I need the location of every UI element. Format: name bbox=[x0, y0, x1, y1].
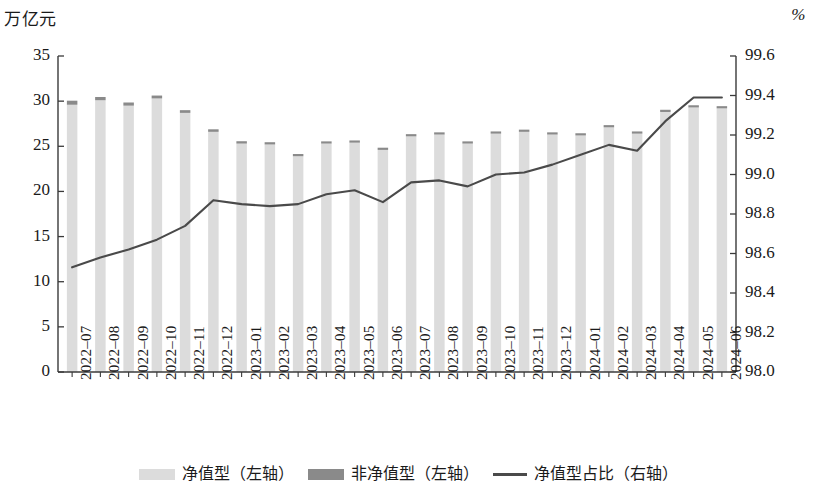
chart-legend: 净值型（左轴） 非净值型（左轴） 净值型占比（右轴） bbox=[0, 466, 816, 482]
bar-group bbox=[547, 132, 558, 372]
bar-group bbox=[604, 125, 615, 372]
legend-item-non-net-value: 非净值型（左轴） bbox=[308, 466, 479, 482]
right-tick-label: 98.0 bbox=[745, 361, 775, 381]
bar-group bbox=[717, 106, 728, 372]
bar-group bbox=[519, 130, 530, 372]
bar-group bbox=[434, 132, 445, 372]
x-tick-label: 2022–09 bbox=[135, 325, 152, 380]
bar-group bbox=[491, 131, 502, 372]
bar-group bbox=[378, 148, 389, 372]
x-tick-label: 2022–12 bbox=[219, 325, 236, 380]
x-tick-label: 2022–10 bbox=[163, 325, 180, 380]
chart-plot-area bbox=[0, 0, 816, 494]
x-tick-label: 2024–06 bbox=[728, 325, 745, 380]
right-tick-label: 98.4 bbox=[745, 282, 775, 302]
x-tick-label: 2024–01 bbox=[587, 325, 604, 380]
right-tick-label: 99.2 bbox=[745, 124, 775, 144]
x-tick-label: 2023–06 bbox=[389, 325, 406, 380]
left-tick-label: 30 bbox=[8, 90, 50, 110]
line-series-net-value-share bbox=[72, 97, 722, 267]
legend-item-net-value-share: 净值型占比（右轴） bbox=[493, 466, 678, 482]
x-tick-label: 2024–05 bbox=[700, 325, 717, 380]
left-tick-label: 5 bbox=[8, 316, 50, 336]
x-tick-label: 2023–05 bbox=[361, 325, 378, 380]
x-tick-label: 2023–03 bbox=[304, 325, 321, 380]
legend-label-non-net-value: 非净值型（左轴） bbox=[351, 466, 479, 482]
x-tick-label: 2023–02 bbox=[276, 325, 293, 380]
left-tick-label: 10 bbox=[8, 271, 50, 291]
x-tick-label: 2023–01 bbox=[248, 325, 265, 380]
legend-item-net-value: 净值型（左轴） bbox=[139, 466, 294, 482]
bar-group bbox=[660, 110, 671, 372]
bar-group bbox=[293, 154, 304, 372]
left-tick-label: 15 bbox=[8, 226, 50, 246]
bar-group bbox=[123, 103, 134, 373]
legend-label-net-value: 净值型（左轴） bbox=[182, 466, 294, 482]
x-tick-label: 2022–11 bbox=[191, 326, 208, 380]
bar-group bbox=[67, 101, 78, 372]
x-tick-label: 2022–08 bbox=[106, 325, 123, 380]
bar-group bbox=[180, 110, 191, 372]
left-tick-label: 25 bbox=[8, 135, 50, 155]
x-tick-label: 2023–10 bbox=[502, 325, 519, 380]
x-tick-label: 2023–07 bbox=[417, 325, 434, 380]
right-tick-label: 98.2 bbox=[745, 322, 775, 342]
bar-group bbox=[208, 129, 219, 372]
x-tick-label: 2023–04 bbox=[332, 325, 349, 380]
bar-group bbox=[95, 97, 106, 372]
bar-group bbox=[265, 142, 276, 372]
right-tick-label: 99.0 bbox=[745, 164, 775, 184]
x-tick-label: 2023–08 bbox=[445, 325, 462, 380]
x-tick-label: 2024–03 bbox=[643, 325, 660, 380]
chart-container: 万亿元 % 05101520253035 98.098.298.498.698.… bbox=[0, 0, 816, 494]
bar-group bbox=[462, 141, 473, 372]
bar-group bbox=[152, 96, 163, 372]
bar-group bbox=[632, 131, 643, 372]
x-tick-label: 2023–11 bbox=[530, 326, 547, 380]
legend-label-net-value-share: 净值型占比（右轴） bbox=[534, 466, 678, 482]
x-tick-label: 2023–12 bbox=[558, 325, 575, 380]
legend-swatch-net-value-share bbox=[493, 473, 527, 476]
x-tick-label: 2022–07 bbox=[78, 325, 95, 380]
right-tick-label: 98.6 bbox=[745, 243, 775, 263]
left-tick-label: 35 bbox=[8, 45, 50, 65]
x-tick-label: 2023–09 bbox=[474, 325, 491, 380]
bar-group bbox=[321, 141, 332, 372]
legend-swatch-net-value bbox=[139, 469, 175, 480]
right-tick-label: 98.8 bbox=[745, 203, 775, 223]
left-tick-label: 20 bbox=[8, 180, 50, 200]
bar-group bbox=[236, 141, 247, 372]
bar-group bbox=[575, 133, 586, 372]
legend-swatch-non-net-value bbox=[308, 469, 344, 480]
bar-group bbox=[406, 134, 417, 372]
x-tick-label: 2024–02 bbox=[615, 325, 632, 380]
bar-group bbox=[349, 140, 360, 372]
right-tick-label: 99.6 bbox=[745, 45, 775, 65]
x-tick-label: 2024–04 bbox=[671, 325, 688, 380]
right-tick-label: 99.4 bbox=[745, 85, 775, 105]
bar-group bbox=[688, 105, 699, 372]
left-tick-label: 0 bbox=[8, 361, 50, 381]
